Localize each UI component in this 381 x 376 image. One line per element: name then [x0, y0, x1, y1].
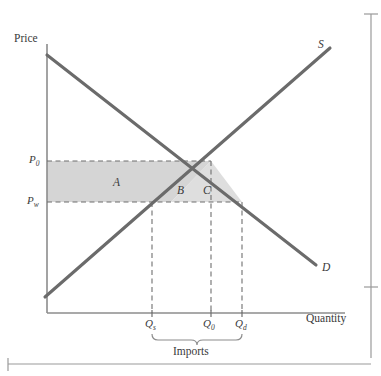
figure-container: Price Quantity S D P0 Pw Qs Q0 Qd A B C … [0, 0, 381, 376]
quantity-tick-qs: Qs [145, 318, 156, 332]
x-axis-label: Quantity [306, 313, 346, 325]
y-axis-label: Price [14, 33, 38, 45]
imports-label: Imports [173, 346, 209, 358]
price-tick-pw-base: P [27, 194, 34, 206]
quantity-tick-q0-base: Q [203, 317, 211, 329]
quantity-tick-qs-base: Q [145, 317, 153, 329]
demand-curve-label: D [322, 262, 330, 274]
region-label-a: A [113, 177, 120, 189]
imports-brace [152, 334, 242, 345]
quantity-tick-qs-sub: s [153, 323, 156, 332]
price-tick-pw: Pw [27, 195, 39, 209]
price-tick-p0-sub: 0 [36, 159, 40, 168]
price-tick-p0-base: P [29, 153, 36, 165]
quantity-tick-qd: Qd [235, 318, 247, 332]
quantity-tick-qd-sub: d [243, 323, 247, 332]
demand-curve [47, 55, 316, 265]
supply-curve-label: S [318, 39, 324, 51]
price-tick-pw-sub: w [34, 200, 39, 209]
quantity-tick-q0: Q0 [203, 318, 215, 332]
region-label-b: B [177, 185, 184, 197]
quantity-tick-qd-base: Q [235, 317, 243, 329]
region-label-c: C [203, 185, 211, 197]
quantity-tick-q0-sub: 0 [211, 323, 215, 332]
price-tick-p0: P0 [29, 154, 39, 168]
